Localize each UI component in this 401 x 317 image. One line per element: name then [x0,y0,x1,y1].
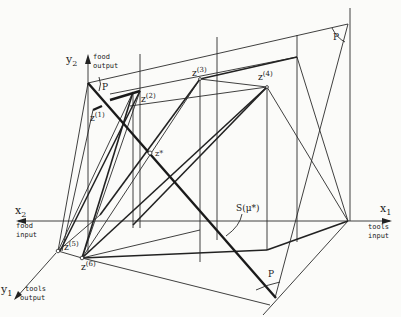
x1-label-line1: tools [368,223,389,231]
y2-label-line2: output [93,62,118,70]
top-plane [88,24,348,262]
label-zstar: z* [155,149,163,158]
x1-axis-label: x1 [380,202,391,217]
y1-label-line1: tools [25,285,46,293]
label-p-top-left: P [102,82,108,92]
point-z5 [56,249,60,253]
angle-arc-top-left [99,77,101,91]
y2-arrow-icon [85,54,91,64]
x2-axis-label: x2 [15,204,26,219]
point-z4 [266,86,269,89]
y2-axis-label: y2 [65,53,77,68]
point-zstar [148,151,152,155]
s-mu-leader [226,214,242,236]
x2-label-line2: input [16,231,37,239]
y2-label-line1: food [93,53,110,61]
y1-axis-label: y1 [0,283,12,298]
label-z4: z(4) [258,70,273,82]
x1-label-line2: input [368,232,389,240]
label-s-mu: S(μ*) [236,203,260,213]
point-z6 [80,256,84,260]
label-z1: z(1) [90,111,105,123]
label-z5: z(5) [64,240,79,252]
point-z3 [199,78,202,81]
hyperplane-s-mu [88,83,276,298]
x2-label-line1: food [16,222,33,230]
label-p-bottom: P [268,269,274,279]
label-z2: z(2) [141,92,156,104]
label-z6: z(6) [81,260,96,272]
segment-z1 [93,106,102,110]
y1-label-line2: output [20,294,45,302]
production-possibility-diagram: y2 food output x2 food input x1 tools in… [0,0,401,317]
